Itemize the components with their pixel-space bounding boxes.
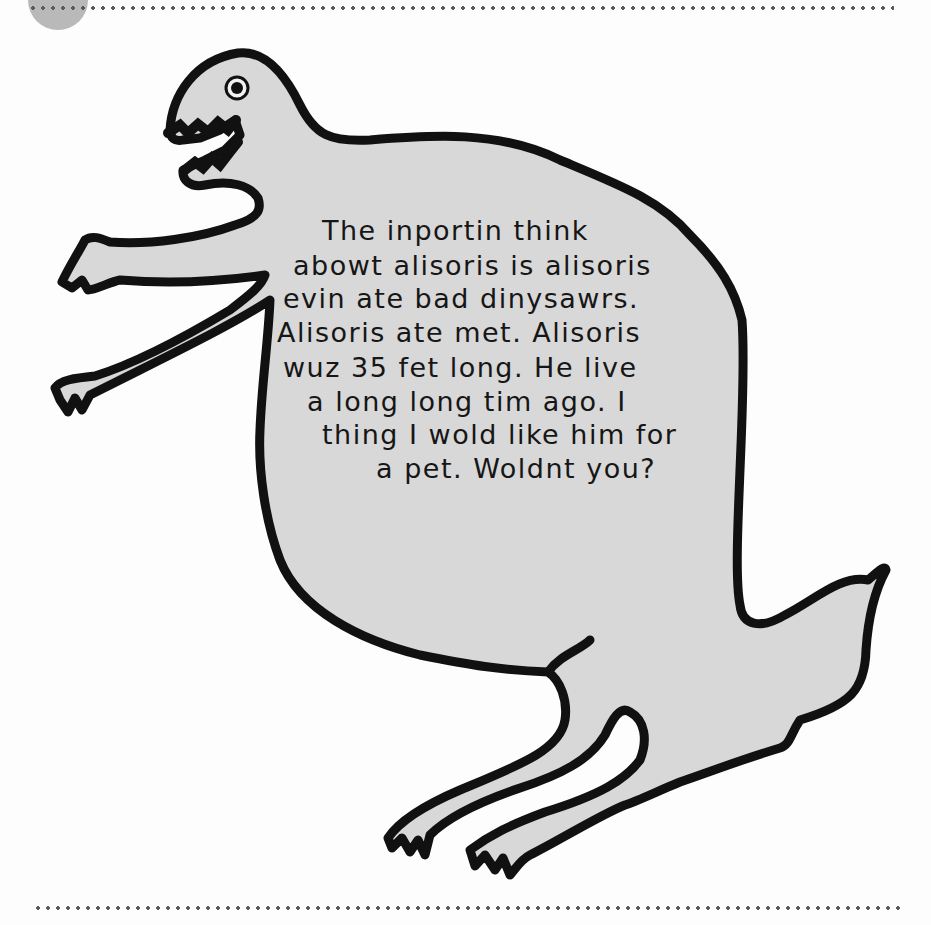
text-line: a long long tim ago. I [307, 386, 627, 417]
text-line: thing I wold like him for [322, 419, 677, 450]
text-line: wuz 35 fet long. He live [283, 352, 638, 383]
eye-icon [226, 77, 248, 99]
text-line: The inportin think [321, 215, 589, 246]
text-line: a pet. Woldnt you? [376, 453, 656, 484]
scanned-page: The inportin think abowt alisoris is ali… [0, 0, 931, 925]
dinosaur-drawing: The inportin think abowt alisoris is ali… [0, 0, 931, 925]
text-line: Alisoris ate met. Alisoris [277, 317, 641, 348]
text-line: abowt alisoris is alisoris [293, 250, 652, 281]
text-line: evin ate bad dinysawrs. [283, 283, 639, 314]
